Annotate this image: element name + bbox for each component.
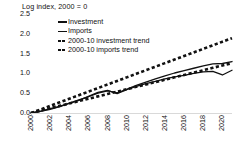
- x-axis-tick-label: 2016: [180, 115, 187, 131]
- x-axis-tick-label: 2010: [123, 115, 130, 131]
- x-axis-tick-label: 2000: [27, 115, 34, 131]
- x-axis: 2000200220042006200820102012201420162018…: [31, 113, 232, 150]
- legend-item-label: 2000-10 imports trend: [68, 46, 138, 53]
- y-axis-tick-label: 1.0: [8, 69, 30, 76]
- chart-container: Log index, 2000 = 0 2.52.01.51.00.50.0 2…: [0, 0, 240, 150]
- x-axis-tick-label: 2012: [142, 115, 149, 131]
- legend-item[interactable]: 2000-10 imports trend: [58, 46, 150, 55]
- solid-line-icon: [58, 27, 67, 36]
- legend-item-label: Investment: [68, 18, 103, 25]
- legend-item[interactable]: Investment: [58, 17, 150, 26]
- y-axis-tick-label: 1.5: [8, 50, 30, 57]
- legend-item[interactable]: 2000-10 investment trend: [58, 36, 150, 45]
- series-line-2: [31, 63, 232, 113]
- x-axis-tick-label: 2008: [104, 115, 111, 131]
- solid-line-icon: [58, 17, 67, 26]
- y-axis-tick-label: 0.5: [8, 89, 30, 96]
- x-axis-tick-label: 2014: [161, 115, 168, 131]
- x-axis-tick-label: 2020: [218, 115, 225, 131]
- y-axis-tick-label: 2.0: [8, 30, 30, 37]
- dashed-line-icon: [58, 36, 67, 45]
- legend-item-label: Imports: [68, 27, 92, 34]
- legend-item-label: 2000-10 investment trend: [68, 37, 150, 44]
- x-axis-tick-label: 2018: [199, 115, 206, 131]
- chart-title: Log index, 2000 = 0: [22, 2, 87, 11]
- x-axis-tick-label: 2004: [65, 115, 72, 131]
- dashed-line-icon: [58, 46, 67, 55]
- y-axis-tick-label: 2.5: [8, 10, 30, 17]
- chart-legend: InvestmentImports2000-10 investment tren…: [58, 17, 150, 55]
- x-axis-tick-label: 2002: [46, 115, 53, 131]
- legend-item[interactable]: Imports: [58, 27, 150, 36]
- x-axis-tick-label: 2006: [84, 115, 91, 131]
